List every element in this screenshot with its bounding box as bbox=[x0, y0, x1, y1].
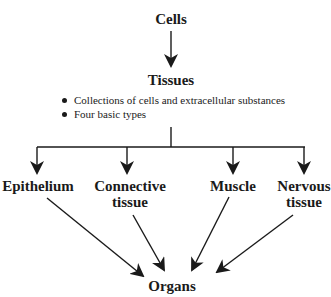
tissue-notes: Collections of cells and extracellular s… bbox=[62, 93, 285, 121]
note-item: Four basic types bbox=[62, 107, 285, 121]
node-nervous-tissue: Nervous tissue bbox=[273, 178, 331, 210]
node-tissues: Tissues bbox=[131, 72, 211, 88]
node-cells: Cells bbox=[141, 11, 201, 27]
note-item: Collections of cells and extracellular s… bbox=[62, 93, 285, 107]
connector-arrows bbox=[0, 0, 331, 297]
node-muscle: Muscle bbox=[203, 178, 263, 194]
bullet-icon bbox=[62, 112, 67, 117]
node-connective-tissue: Connective tissue bbox=[90, 178, 170, 210]
bullet-icon bbox=[62, 98, 67, 103]
node-epithelium: Epithelium bbox=[0, 178, 76, 194]
node-organs: Organs bbox=[136, 278, 208, 294]
